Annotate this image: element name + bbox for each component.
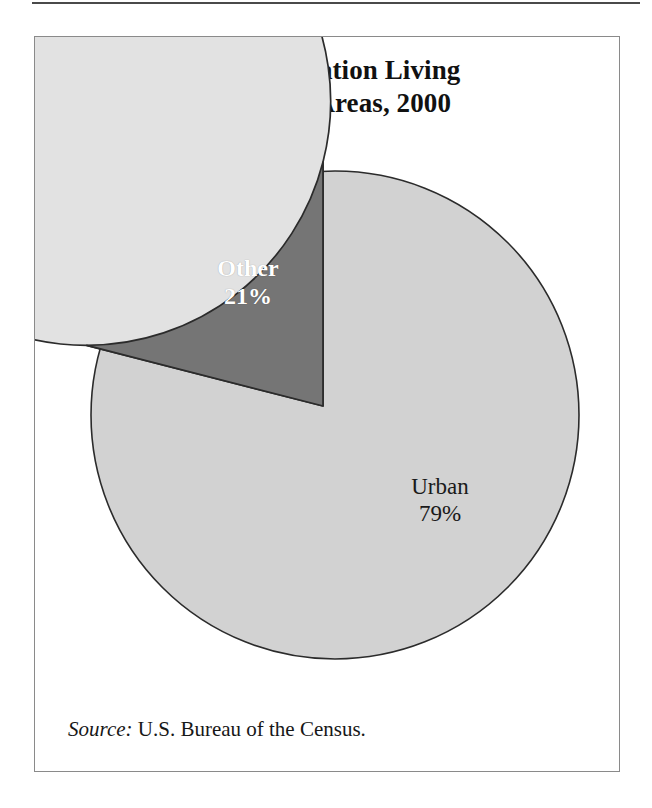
pie-chart-svg	[35, 37, 621, 773]
source-note: Source: U.S. Bureau of the Census.	[68, 717, 366, 742]
top-horizontal-rule	[32, 2, 640, 4]
figure-frame: U.S. Population Living in Urban Areas, 2…	[34, 36, 620, 772]
pie-chart: Other 21% Urban 79%	[35, 37, 621, 773]
source-label: Source:	[68, 717, 133, 741]
source-text: U.S. Bureau of the Census.	[133, 717, 366, 741]
